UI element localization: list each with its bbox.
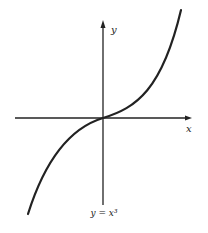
y-axis — [101, 20, 106, 205]
cubic-curve — [28, 10, 181, 214]
x-axis-arrow-icon — [185, 116, 192, 121]
x-axis-label: x — [186, 123, 192, 134]
y-axis-label: y — [110, 24, 117, 35]
cubic-graph: y x — [0, 0, 208, 233]
y-axis-arrow-icon — [101, 20, 106, 28]
figure-caption: y = x³ — [0, 208, 208, 218]
